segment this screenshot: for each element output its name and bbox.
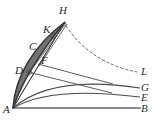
point-label-D: D: [15, 65, 23, 76]
point-label-B: B: [141, 103, 148, 114]
point-label-L: L: [141, 66, 147, 77]
arc-AG: [13, 84, 140, 108]
point-label-E: E: [141, 92, 148, 103]
point-label-H: H: [59, 5, 67, 16]
point-label-C: C: [29, 41, 36, 52]
segment-F-to-G: [38, 64, 113, 84]
geometry-figure: A B C D E F G H K L: [0, 0, 157, 126]
point-label-G: G: [141, 82, 149, 93]
segment-D-to-G: [28, 72, 112, 93]
dashed-curve-HL: [66, 26, 137, 72]
point-label-F: F: [41, 55, 48, 66]
point-label-K: K: [43, 24, 50, 35]
point-label-A: A: [3, 104, 10, 115]
figure-canvas: [0, 0, 157, 126]
